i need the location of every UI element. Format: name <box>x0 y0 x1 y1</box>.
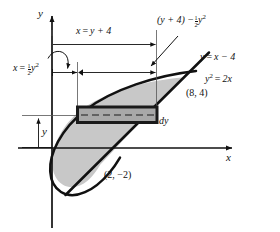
line-eq-lhs: y <box>200 51 204 62</box>
parabola-equation-label: y2=2x <box>205 73 232 84</box>
par-eq-eq: = <box>215 73 221 84</box>
left-dimension-label: x=12y2 <box>13 62 39 76</box>
figure-canvas: y x x=y + 4 x=12y2 (y + 4) −12y2 y=x − 4… <box>0 0 280 232</box>
left-dim-exp: 2 <box>36 61 39 68</box>
top-dim-eq: = <box>82 25 88 36</box>
left-dim-lhs: x <box>13 62 17 73</box>
width-annotation-leader <box>151 36 178 66</box>
y-measure-label: y <box>42 126 47 137</box>
point-upper-label: (8, 4) <box>186 88 208 98</box>
width-ann-part1: (y + 4) − <box>157 14 194 25</box>
top-dim-rhs: y + 4 <box>90 25 111 36</box>
y-axis-label: y <box>38 8 43 19</box>
line-eq-eq: = <box>206 51 212 62</box>
width-annotation-label: (y + 4) −12y2 <box>157 14 206 28</box>
strip-thickness-label: dy <box>159 116 168 126</box>
half-ysq-curved-arrow <box>48 51 68 68</box>
par-eq-rhs: 2x <box>223 73 232 84</box>
y-measurement <box>22 119 52 148</box>
line-equation-label: y=x − 4 <box>200 52 235 62</box>
width-ann-exp: 2 <box>203 13 206 20</box>
top-dimension-label: x=y + 4 <box>76 26 111 36</box>
representative-rectangle <box>78 107 158 123</box>
diagram-svg <box>0 0 280 232</box>
top-dim-lhs: x <box>76 25 80 36</box>
width-dimension-left-arrowhead <box>78 69 83 76</box>
point-lower-label: (2, −2) <box>104 170 131 180</box>
par-eq-exp: 2 <box>209 72 212 79</box>
left-dim-eq: = <box>19 62 25 73</box>
x-axis-label: x <box>226 152 231 163</box>
line-eq-rhs: x − 4 <box>214 51 235 62</box>
